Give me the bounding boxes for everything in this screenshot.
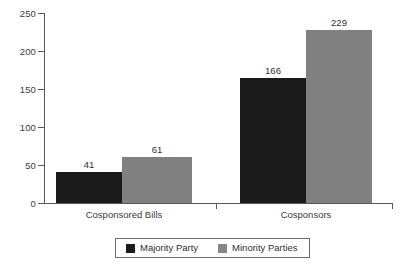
bar-value-cosponsors-minority: 229 bbox=[306, 18, 372, 28]
bar-cosponsored-bills-majority bbox=[56, 172, 122, 203]
legend-swatch-icon-majority bbox=[126, 244, 135, 253]
bar-value-cosponsored-bills-minority: 61 bbox=[122, 145, 192, 155]
plot-area: 41 61 166 229 bbox=[44, 14, 392, 203]
legend-swatch-icon-minority bbox=[218, 244, 227, 253]
legend-entry-majority-party: Majority Party bbox=[126, 239, 198, 257]
y-axis-label-50: 50 bbox=[2, 161, 36, 171]
y-axis-label-0: 0 bbox=[2, 199, 36, 209]
bar-cosponsored-bills-minority bbox=[122, 157, 192, 203]
bar-cosponsors-minority bbox=[306, 30, 372, 203]
x-axis-tick-end bbox=[392, 204, 393, 209]
legend: Majority Party Minority Parties bbox=[115, 238, 310, 258]
x-axis-category-cosponsored-bills: Cosponsored Bills bbox=[56, 210, 192, 220]
y-axis-label-250: 250 bbox=[2, 9, 36, 19]
x-axis-line bbox=[44, 203, 393, 204]
y-axis-label-150: 150 bbox=[2, 85, 36, 95]
legend-entry-minority-parties: Minority Parties bbox=[218, 239, 297, 257]
bar-chart: 250 200 150 100 50 0 41 61 166 229 Cospo… bbox=[0, 0, 412, 265]
bar-cosponsors-majority bbox=[240, 78, 306, 203]
bar-value-cosponsored-bills-majority: 41 bbox=[56, 160, 122, 170]
x-axis-category-cosponsors: Cosponsors bbox=[240, 210, 372, 220]
bar-value-cosponsors-majority: 166 bbox=[240, 66, 306, 76]
legend-label-majority-party: Majority Party bbox=[140, 243, 198, 253]
x-axis-tick-divider bbox=[216, 204, 217, 209]
legend-label-minority-parties: Minority Parties bbox=[232, 243, 297, 253]
y-axis-label-200: 200 bbox=[2, 47, 36, 57]
y-axis-label-100: 100 bbox=[2, 123, 36, 133]
